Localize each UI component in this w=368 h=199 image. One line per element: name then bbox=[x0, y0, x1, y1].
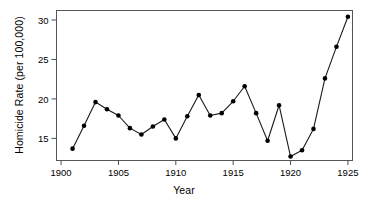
x-tick-label: 1905 bbox=[108, 167, 129, 178]
data-point-marker bbox=[334, 45, 339, 50]
data-point-marker bbox=[185, 114, 190, 119]
x-axis-title: Year bbox=[0, 184, 368, 196]
data-point-marker bbox=[346, 15, 351, 20]
series-line-homicide-rate bbox=[73, 17, 348, 157]
data-point-marker bbox=[128, 126, 133, 131]
data-point-marker bbox=[323, 76, 328, 81]
x-tick-label: 1925 bbox=[337, 167, 358, 178]
data-point-marker bbox=[242, 84, 247, 89]
x-tick-label: 1900 bbox=[51, 167, 72, 178]
chart-figure: 190019051910191519201925 15202530 Year H… bbox=[0, 0, 368, 199]
data-series-group bbox=[70, 15, 350, 159]
data-point-marker bbox=[219, 111, 224, 116]
data-point-marker bbox=[162, 117, 167, 122]
x-tick-label: 1910 bbox=[165, 167, 186, 178]
data-point-marker bbox=[277, 103, 282, 108]
data-point-marker bbox=[105, 107, 110, 112]
data-point-marker bbox=[139, 132, 144, 137]
data-point-marker bbox=[151, 124, 156, 129]
x-tick-label: 1915 bbox=[223, 167, 244, 178]
data-point-marker bbox=[116, 113, 121, 118]
data-point-marker bbox=[254, 111, 259, 116]
data-point-marker bbox=[311, 127, 316, 132]
data-point-marker bbox=[288, 154, 293, 159]
data-point-marker bbox=[300, 148, 305, 153]
x-axis-ticks bbox=[61, 161, 348, 166]
data-point-marker bbox=[196, 93, 201, 98]
data-point-marker bbox=[265, 138, 270, 143]
data-point-marker bbox=[208, 113, 213, 118]
x-tick-label: 1920 bbox=[280, 167, 301, 178]
series-markers-homicide-rate bbox=[70, 15, 350, 159]
data-point-marker bbox=[174, 136, 179, 141]
data-point-marker bbox=[231, 99, 236, 104]
y-axis-title: Homicide Rate (per 100,000) bbox=[0, 10, 94, 160]
